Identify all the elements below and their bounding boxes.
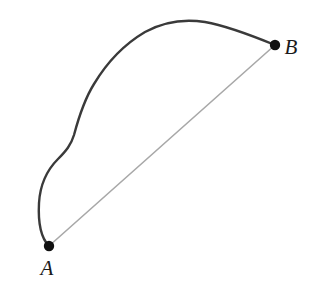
- point-a-label: A: [39, 256, 54, 280]
- figure-canvas: A B: [0, 0, 313, 289]
- point-b-label: B: [285, 35, 298, 59]
- point-b-marker: [270, 40, 280, 50]
- path-comparison-diagram: A B: [0, 0, 313, 289]
- point-a-marker: [44, 241, 54, 251]
